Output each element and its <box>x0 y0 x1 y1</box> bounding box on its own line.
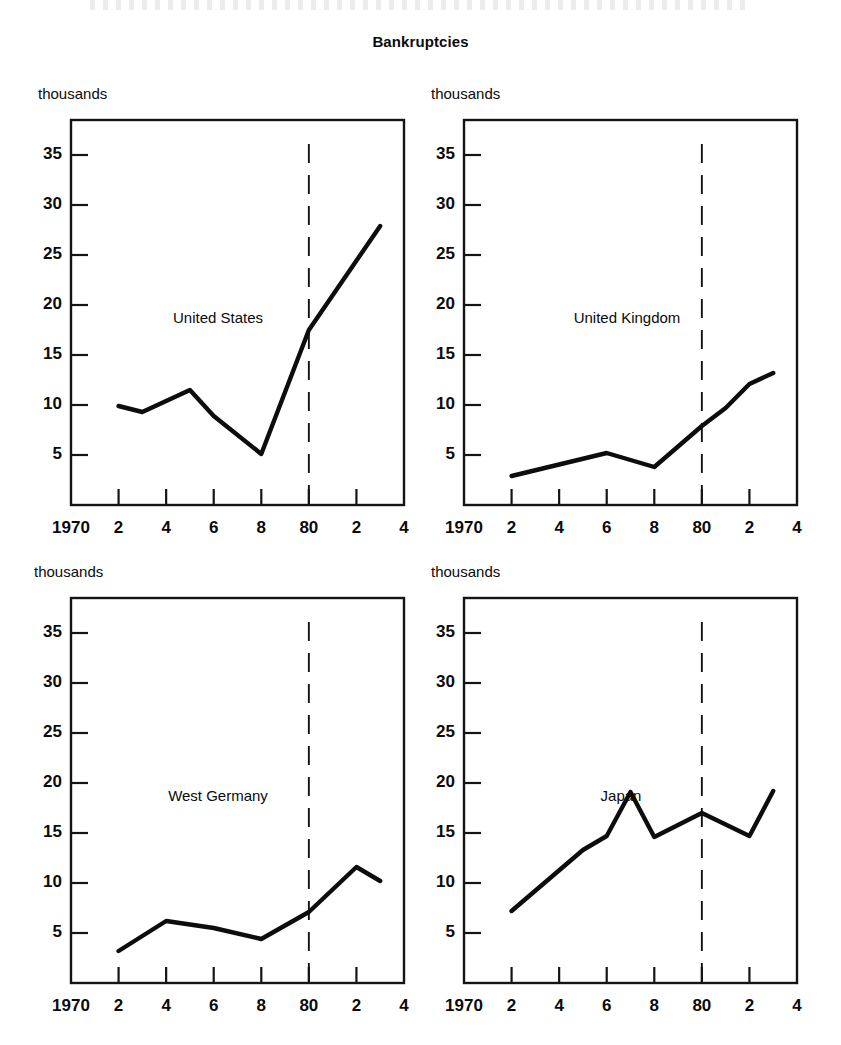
y-axis-tick-label: 5 <box>53 922 62 941</box>
x-axis-tick-label: 80 <box>299 518 318 537</box>
x-axis-tick-label: 4 <box>399 996 409 1015</box>
x-axis-tick-label: 2 <box>114 996 123 1015</box>
x-axis-tick-label: 80 <box>692 518 711 537</box>
x-axis-tick-label: 6 <box>209 996 218 1015</box>
data-series-line <box>119 867 381 951</box>
y-axis-tick-label: 20 <box>436 294 455 313</box>
x-axis-tick-label: 2 <box>507 518 516 537</box>
y-axis-tick-label: 30 <box>43 194 62 213</box>
plot-west-germany: 5101520253035197024688024West Germany <box>22 563 422 1038</box>
x-axis-tick-label: 4 <box>792 996 802 1015</box>
x-axis-tick-label: 8 <box>650 518 659 537</box>
plot-japan: 5101520253035197024688024Japan <box>415 563 815 1038</box>
x-axis-tick-label: 6 <box>602 996 611 1015</box>
y-axis-tick-label: 30 <box>436 194 455 213</box>
y-axis-tick-label: 20 <box>43 294 62 313</box>
y-axis-tick-label: 25 <box>43 722 62 741</box>
x-axis-tick-label: 80 <box>299 996 318 1015</box>
y-axis-tick-label: 15 <box>436 822 455 841</box>
series-label: West Germany <box>168 787 268 804</box>
y-axis-tick-label: 35 <box>436 622 455 641</box>
y-axis-tick-label: 30 <box>436 672 455 691</box>
y-axis-tick-label: 5 <box>53 444 62 463</box>
x-axis-tick-label: 2 <box>114 518 123 537</box>
data-series-line <box>512 373 774 476</box>
x-axis-tick-label: 4 <box>792 518 802 537</box>
panel-united-kingdom: thousands 5101520253035197024688024Unite… <box>415 85 815 560</box>
series-label: United States <box>173 309 263 326</box>
x-axis-tick-label: 2 <box>745 518 754 537</box>
x-axis-tick-label: 6 <box>209 518 218 537</box>
x-axis-tick-label: 1970 <box>445 518 483 537</box>
y-axis-tick-label: 15 <box>436 344 455 363</box>
x-axis-tick-label: 4 <box>161 518 171 537</box>
x-axis-tick-label: 2 <box>507 996 516 1015</box>
x-axis-tick-label: 8 <box>650 996 659 1015</box>
panel-united-states: thousands 5101520253035197024688024Unite… <box>22 85 422 560</box>
y-axis-tick-label: 25 <box>43 244 62 263</box>
x-axis-tick-label: 1970 <box>52 996 90 1015</box>
scan-bleed-artifact <box>90 0 750 10</box>
y-axis-tick-label: 5 <box>446 922 455 941</box>
x-axis-tick-label: 6 <box>602 518 611 537</box>
x-axis-tick-label: 8 <box>257 996 266 1015</box>
series-label: United Kingdom <box>574 309 681 326</box>
data-series-line <box>512 791 774 911</box>
x-axis-tick-label: 4 <box>554 996 564 1015</box>
y-axis-tick-label: 15 <box>43 344 62 363</box>
y-axis-tick-label: 25 <box>436 244 455 263</box>
y-axis-tick-label: 35 <box>43 622 62 641</box>
panel-japan: thousands 5101520253035197024688024Japan <box>415 563 815 1038</box>
y-axis-tick-label: 20 <box>436 772 455 791</box>
x-axis-tick-label: 1970 <box>445 996 483 1015</box>
x-axis-tick-label: 2 <box>352 518 361 537</box>
x-axis-tick-label: 2 <box>745 996 754 1015</box>
plot-united-kingdom: 5101520253035197024688024United Kingdom <box>415 85 815 560</box>
y-axis-tick-label: 35 <box>43 144 62 163</box>
y-axis-tick-label: 25 <box>436 722 455 741</box>
x-axis-tick-label: 2 <box>352 996 361 1015</box>
y-axis-tick-label: 5 <box>446 444 455 463</box>
panel-west-germany: thousands 5101520253035197024688024West … <box>22 563 422 1038</box>
y-axis-tick-label: 20 <box>43 772 62 791</box>
x-axis-tick-label: 4 <box>399 518 409 537</box>
x-axis-tick-label: 80 <box>692 996 711 1015</box>
y-axis-tick-label: 35 <box>436 144 455 163</box>
x-axis-tick-label: 1970 <box>52 518 90 537</box>
x-axis-tick-label: 8 <box>257 518 266 537</box>
page-title: Bankruptcies <box>0 33 841 50</box>
y-axis-tick-label: 10 <box>436 872 455 891</box>
x-axis-tick-label: 4 <box>554 518 564 537</box>
data-series-line <box>119 226 381 454</box>
x-axis-tick-label: 4 <box>161 996 171 1015</box>
y-axis-tick-label: 15 <box>43 822 62 841</box>
y-axis-tick-label: 10 <box>43 872 62 891</box>
y-axis-tick-label: 10 <box>436 394 455 413</box>
y-axis-tick-label: 30 <box>43 672 62 691</box>
y-axis-tick-label: 10 <box>43 394 62 413</box>
series-label: Japan <box>601 787 642 804</box>
plot-united-states: 5101520253035197024688024United States <box>22 85 422 560</box>
